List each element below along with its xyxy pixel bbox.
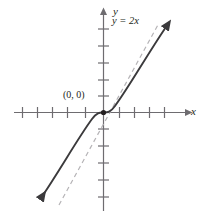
reference-line-y-equals-2x [59, 23, 159, 205]
x-axis-label: x [191, 106, 196, 117]
coordinate-plot [0, 0, 206, 221]
graph-figure: y x y = 2x (0, 0) [0, 0, 206, 221]
origin-point-dot [101, 110, 106, 115]
origin-coordinate-label: (0, 0) [63, 90, 85, 100]
line-equation-label: y = 2x [112, 16, 139, 27]
